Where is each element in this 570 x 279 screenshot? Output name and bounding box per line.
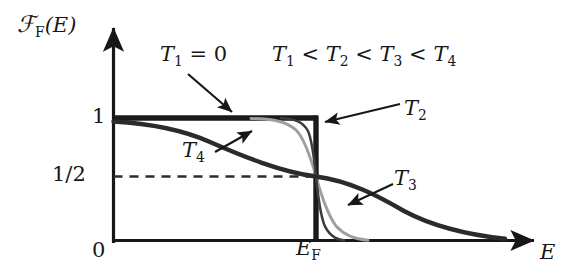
annotation-T3-subscript: 3 [408, 177, 417, 193]
y-axis-label-subscript: F [35, 24, 45, 40]
annotation-T3-symbol: T [394, 166, 408, 190]
annotation-T1-value: = 0 [183, 42, 227, 66]
x-axis-label: E [540, 242, 555, 263]
annotation-T3: T3 [394, 168, 417, 189]
y-tick-label-half: 1/2 [52, 164, 86, 185]
ordering-T3: T [380, 42, 394, 66]
annotation-T4-symbol: T [182, 138, 196, 162]
annotation-T4: T4 [182, 140, 205, 161]
annotation-T2: T2 [404, 98, 427, 119]
y-axis-label-symbol: ℱ [17, 11, 35, 37]
annotation-T4-subscript: 4 [196, 149, 205, 165]
y-tick-label-zero: 0 [92, 240, 105, 261]
annotation-temperature-ordering: T1 < T2 < T3 < T4 [272, 44, 456, 65]
annotation-T2-symbol: T [404, 96, 418, 120]
ordering-T2: T [326, 42, 340, 66]
x-tick-label-fermi-energy: EF [296, 238, 321, 259]
annotation-T1: T1 = 0 [160, 44, 227, 65]
ordering-T1: T [272, 42, 286, 66]
annotation-T2-subscript: 2 [418, 107, 427, 123]
ordering-T4: T [433, 42, 447, 66]
fermi-energy-subscript: F [311, 247, 321, 263]
fermi-energy-symbol: E [296, 236, 311, 260]
y-axis-label: ℱF(E) [17, 13, 76, 36]
y-axis-label-argument: (E) [45, 13, 77, 37]
annotation-T1-symbol: T [160, 42, 174, 66]
y-tick-label-one: 1 [92, 106, 105, 127]
annotation-T1-subscript: 1 [174, 53, 183, 69]
